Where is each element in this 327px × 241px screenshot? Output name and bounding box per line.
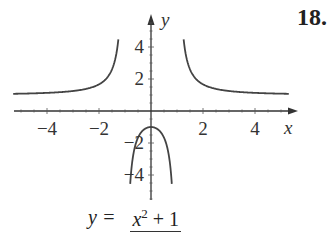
formula-fraction: x2 + 1 (130, 206, 181, 232)
svg-text:−2: −2 (124, 132, 144, 153)
y-axis-label: y (159, 9, 170, 30)
svg-text:−4: −4 (124, 164, 145, 185)
numerator-rest: + 1 (148, 208, 179, 230)
formula-lhs: y = (88, 206, 115, 228)
svg-text:4: 4 (135, 36, 145, 57)
svg-text:2: 2 (135, 68, 145, 89)
problem-number: 18. (297, 4, 327, 31)
x-axis-arrow-icon (288, 108, 298, 115)
svg-text:2: 2 (198, 118, 208, 139)
numerator-var: x (132, 208, 141, 230)
svg-text:4: 4 (250, 118, 260, 139)
svg-text:−2: −2 (89, 118, 109, 139)
formula-numerator: x2 + 1 (130, 206, 181, 232)
x-axis-label: x (283, 117, 293, 138)
svg-text:−4: −4 (37, 118, 58, 139)
function-formula: y = x2 + 1 (88, 206, 181, 232)
